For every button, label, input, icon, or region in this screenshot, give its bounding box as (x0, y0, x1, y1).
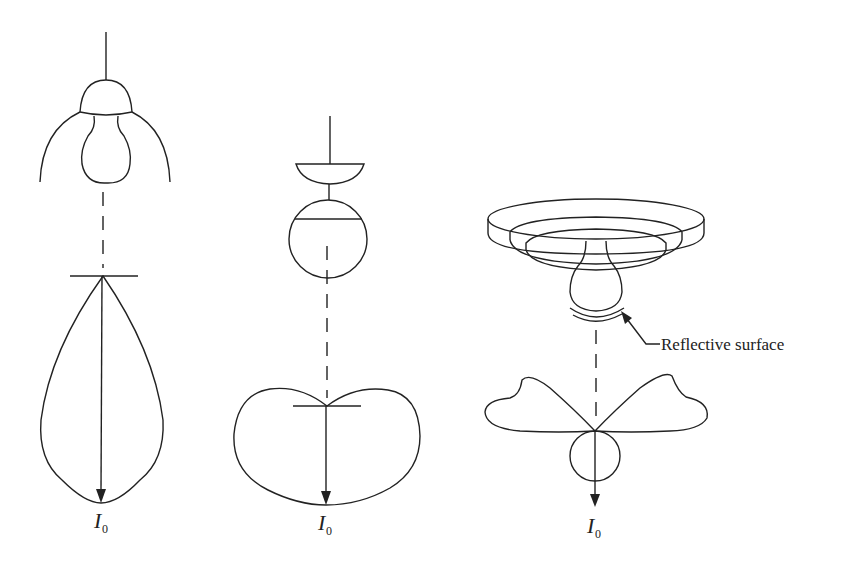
cap-rim (80, 112, 132, 115)
intensity-arrowhead (321, 491, 331, 505)
intensity-arrowhead (590, 494, 600, 507)
distribution-lobe-left (485, 377, 595, 432)
bulb (570, 241, 622, 311)
distribution-lobe-right (595, 375, 707, 433)
reflective-surface-label: Reflective surface (661, 335, 784, 354)
panel-direct: I 0 (40, 32, 170, 536)
ceiling-fixture (488, 199, 704, 321)
reflective-surface (570, 308, 624, 317)
distribution-curve (234, 388, 420, 505)
shade-right (132, 112, 170, 182)
bulb (82, 116, 131, 183)
shallow-cap (296, 164, 364, 184)
callout-arrowhead (621, 311, 632, 324)
pendant-lamp-globe (289, 116, 367, 278)
lamp-cap (80, 80, 132, 112)
outer-ring-top (488, 199, 704, 239)
panel-indirect: Reflective surface I 0 (485, 199, 784, 541)
intensity-arrowhead (96, 489, 106, 503)
intensity-arrow-shaft (101, 276, 102, 490)
luminaire-diagram: I 0 I 0 (0, 0, 848, 565)
intensity-label-subscript: 0 (595, 527, 601, 541)
callout-leader (627, 319, 660, 344)
outer-ring-side (488, 219, 704, 254)
globe (289, 200, 367, 278)
intensity-label-subscript: 0 (102, 522, 108, 536)
shade-left (40, 112, 80, 182)
pendant-lamp-dome (40, 32, 170, 183)
panel-diffuse: I 0 (234, 116, 420, 538)
intensity-label-subscript: 0 (326, 524, 332, 538)
